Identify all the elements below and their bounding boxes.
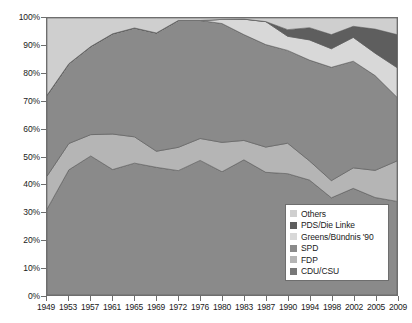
y-tick-label: 0% xyxy=(0,292,40,301)
x-tick-mark xyxy=(354,296,355,301)
x-tick-mark xyxy=(398,296,399,301)
x-tick-mark xyxy=(200,296,201,301)
x-tick-label: 2009 xyxy=(389,302,407,313)
legend-swatch-icon xyxy=(290,233,297,240)
y-tick-label: 60% xyxy=(0,124,40,133)
x-axis-ticks xyxy=(46,296,398,301)
x-tick-label: 1965 xyxy=(125,302,143,313)
y-tick-label: 40% xyxy=(0,180,40,189)
legend-item[interactable]: Others xyxy=(290,208,384,220)
legend-swatch-icon xyxy=(290,256,297,263)
legend-swatch-icon xyxy=(290,268,297,275)
y-tick-label: 70% xyxy=(0,96,40,105)
legend-swatch-icon xyxy=(290,222,297,229)
y-tick-label: 10% xyxy=(0,264,40,273)
y-tick-label: 50% xyxy=(0,152,40,161)
chart-legend: OthersPDS/Die LinkeGreens/Bündnis '90SPD… xyxy=(285,204,389,281)
x-tick-mark xyxy=(90,296,91,301)
x-tick-mark xyxy=(112,296,113,301)
y-tick-label: 80% xyxy=(0,68,40,77)
x-tick-mark xyxy=(68,296,69,301)
legend-item-label: Others xyxy=(301,209,326,219)
legend-swatch-icon xyxy=(290,245,297,252)
x-axis: 1949195319571961196519691972197619801983… xyxy=(0,302,412,316)
y-tick-label: 20% xyxy=(0,236,40,245)
x-tick-mark xyxy=(156,296,157,301)
y-tick-label: 100% xyxy=(0,13,40,22)
legend-item[interactable]: PDS/Die Linke xyxy=(290,220,384,232)
y-axis: 0%10%20%30%40%50%60%70%80%90%100% xyxy=(0,17,40,296)
x-tick-label: 1976 xyxy=(191,302,209,313)
y-tick-label: 90% xyxy=(0,40,40,49)
x-tick-mark xyxy=(244,296,245,301)
stacked-area-chart: 0%10%20%30%40%50%60%70%80%90%100% 194919… xyxy=(0,0,412,323)
x-tick-label: 2002 xyxy=(345,302,363,313)
legend-item-label: PDS/Die Linke xyxy=(301,220,355,230)
x-tick-label: 1969 xyxy=(147,302,165,313)
x-tick-label: 1990 xyxy=(279,302,297,313)
x-tick-label: 1987 xyxy=(257,302,275,313)
legend-item[interactable]: SPD xyxy=(290,243,384,255)
legend-item[interactable]: CDU/CSU xyxy=(290,266,384,278)
x-tick-mark xyxy=(332,296,333,301)
x-tick-label: 1961 xyxy=(103,302,121,313)
x-tick-label: 2005 xyxy=(367,302,385,313)
legend-item-label: SPD xyxy=(301,243,318,253)
legend-item-label: CDU/CSU xyxy=(301,266,339,276)
x-tick-mark xyxy=(134,296,135,301)
y-tick-label: 30% xyxy=(0,208,40,217)
x-tick-label: 1953 xyxy=(59,302,77,313)
x-tick-label: 1957 xyxy=(81,302,99,313)
x-tick-mark xyxy=(376,296,377,301)
x-tick-mark xyxy=(310,296,311,301)
x-tick-label: 1983 xyxy=(235,302,253,313)
legend-swatch-icon xyxy=(290,210,297,217)
x-tick-mark xyxy=(178,296,179,301)
legend-item-label: FDP xyxy=(301,255,318,265)
x-tick-label: 1949 xyxy=(37,302,55,313)
legend-item[interactable]: Greens/Bündnis '90 xyxy=(290,231,384,243)
x-tick-mark xyxy=(266,296,267,301)
x-tick-mark xyxy=(46,296,47,301)
x-tick-label: 1994 xyxy=(301,302,319,313)
x-tick-label: 1972 xyxy=(169,302,187,313)
x-tick-mark xyxy=(288,296,289,301)
legend-item-label: Greens/Bündnis '90 xyxy=(301,232,374,242)
x-tick-label: 1998 xyxy=(323,302,341,313)
x-tick-mark xyxy=(222,296,223,301)
legend-item[interactable]: FDP xyxy=(290,254,384,266)
x-tick-label: 1980 xyxy=(213,302,231,313)
